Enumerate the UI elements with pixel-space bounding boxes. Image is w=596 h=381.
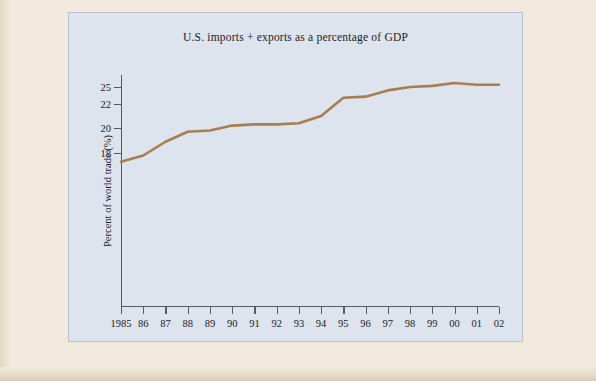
figure-panel: U.S. imports + exports as a percentage o… bbox=[68, 12, 523, 342]
x-tick-label: 93 bbox=[294, 318, 305, 329]
y-tick-label: 18 bbox=[101, 148, 112, 159]
x-tick-label: 95 bbox=[338, 318, 349, 329]
x-tick-label: 91 bbox=[249, 318, 260, 329]
x-tick-label: 99 bbox=[427, 318, 438, 329]
y-tick-mark bbox=[114, 87, 121, 88]
page-background: U.S. imports + exports as a percentage o… bbox=[0, 0, 596, 381]
x-tick-mark bbox=[432, 307, 433, 314]
x-tick-mark bbox=[366, 307, 367, 314]
x-tick-mark bbox=[388, 307, 389, 314]
x-tick-mark bbox=[299, 307, 300, 314]
chart-title: U.S. imports + exports as a percentage o… bbox=[69, 31, 522, 43]
x-tick-mark bbox=[499, 307, 500, 314]
x-tick-mark bbox=[254, 307, 255, 314]
y-tick-mark bbox=[114, 104, 121, 105]
y-tick-label: 25 bbox=[101, 82, 112, 93]
y-tick-label: 20 bbox=[101, 123, 112, 134]
y-tick-mark bbox=[114, 128, 121, 129]
x-tick-label: 88 bbox=[182, 318, 193, 329]
plot-area: Percent of world trade (%) 25222018 1985… bbox=[121, 75, 499, 307]
x-tick-mark bbox=[343, 307, 344, 314]
x-tick-label: 1985 bbox=[111, 318, 132, 329]
x-tick-label: 92 bbox=[271, 318, 282, 329]
x-tick-label: 94 bbox=[316, 318, 327, 329]
x-tick-label: 87 bbox=[160, 318, 171, 329]
x-tick-label: 96 bbox=[360, 318, 371, 329]
x-tick-label: 97 bbox=[383, 318, 394, 329]
x-tick-mark bbox=[232, 307, 233, 314]
x-tick-label: 86 bbox=[138, 318, 149, 329]
x-tick-label: 01 bbox=[472, 318, 483, 329]
x-tick-mark bbox=[210, 307, 211, 314]
x-tick-label: 89 bbox=[205, 318, 216, 329]
x-tick-mark bbox=[477, 307, 478, 314]
x-tick-mark bbox=[188, 307, 189, 314]
x-tick-label: 90 bbox=[227, 318, 238, 329]
x-tick-label: 00 bbox=[449, 318, 460, 329]
x-tick-mark bbox=[165, 307, 166, 314]
x-tick-mark bbox=[121, 307, 122, 314]
x-tick-mark bbox=[321, 307, 322, 314]
x-tick-label: 98 bbox=[405, 318, 416, 329]
x-tick-mark bbox=[455, 307, 456, 314]
x-tick-mark bbox=[277, 307, 278, 314]
y-tick-mark bbox=[114, 153, 121, 154]
y-tick-label: 22 bbox=[101, 99, 112, 110]
x-tick-mark bbox=[143, 307, 144, 314]
x-tick-mark bbox=[410, 307, 411, 314]
data-series-line bbox=[121, 75, 499, 307]
x-tick-label: 02 bbox=[494, 318, 505, 329]
